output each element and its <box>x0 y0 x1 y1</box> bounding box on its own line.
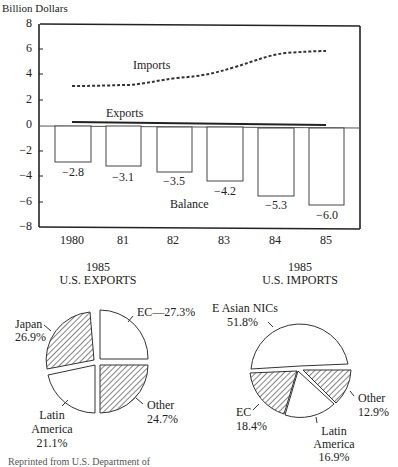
imports-ec-pct: 18.4% <box>236 419 267 434</box>
balance-bars <box>55 126 344 205</box>
imports-ec-name: EC <box>236 405 251 420</box>
imports-other-pct: 12.9% <box>358 405 389 420</box>
exports-latin-pct: 21.1% <box>37 436 68 451</box>
bar-value-label: −3.5 <box>163 174 185 189</box>
imports-pie <box>250 322 354 423</box>
exports-pie <box>44 310 148 413</box>
exports-ec-label: EC—27.3% <box>137 305 195 320</box>
exports-japan-pct: 26.9% <box>15 330 46 345</box>
imports-nics-name: E Asian NICs <box>212 301 278 316</box>
exports-latin-name-1: Latin <box>39 408 64 423</box>
exports-pie-title: U.S. EXPORTS <box>60 273 137 288</box>
bar-value-label: −5.3 <box>265 198 287 213</box>
x-tick-label: 82 <box>167 233 179 248</box>
x-tick-label: 81 <box>117 233 129 248</box>
x-tick-label: 84 <box>269 233 281 248</box>
bar-value-label: −6.0 <box>316 208 338 223</box>
exports-other-name: Other <box>147 398 174 413</box>
bar-value-label: −3.1 <box>112 170 134 185</box>
imports-line <box>72 51 326 86</box>
x-tick-label: 85 <box>320 233 332 248</box>
exports-line <box>72 122 326 125</box>
imports-other-name: Other <box>358 391 385 406</box>
x-tick-label: 1980 <box>60 233 84 248</box>
imports-pie-title: U.S. IMPORTS <box>262 273 338 288</box>
imports-label: Imports <box>133 58 170 73</box>
source-footer: Reprinted from U.S. Department of <box>8 456 150 467</box>
exports-other-pct: 24.7% <box>147 412 178 427</box>
bar-value-label: −2.8 <box>62 165 84 180</box>
imports-latin-pct: 16.9% <box>319 450 350 465</box>
balance-label: Balance <box>170 197 209 212</box>
exports-latin-name-2: America <box>31 422 72 437</box>
x-tick-label: 83 <box>218 233 230 248</box>
exports-label: Exports <box>106 106 143 121</box>
bar-value-label: −4.2 <box>214 184 236 199</box>
imports-nics-pct: 51.8% <box>227 315 258 330</box>
